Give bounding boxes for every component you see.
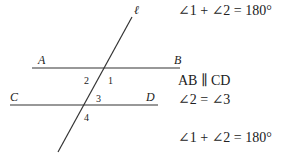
transversal-label: ℓ	[134, 4, 139, 16]
equation-angle-sum-top: ∠1 + ∠2 = 180°	[178, 4, 272, 18]
point-b-label: B	[174, 54, 181, 66]
point-a-label: A	[38, 54, 45, 66]
equation-angle-sum-bottom: ∠1 + ∠2 = 180°	[178, 131, 272, 145]
point-d-label: D	[146, 91, 155, 103]
angle-3-label: 3	[96, 94, 101, 104]
angle-4-label: 4	[84, 113, 89, 123]
transversal-l	[58, 17, 132, 152]
angle-1-label: 1	[108, 76, 113, 86]
equation-parallel: AB ∥ CD	[178, 74, 230, 88]
equation-angle-equal: ∠2 = ∠3	[178, 93, 230, 107]
point-c-label: C	[10, 91, 18, 103]
angle-2-label: 2	[84, 76, 89, 86]
